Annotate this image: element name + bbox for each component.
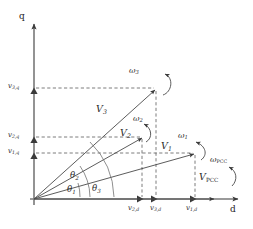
q-axis-label: q: [19, 12, 25, 21]
diagram-vector-graphics: [0, 0, 253, 229]
d-axis-label: d: [230, 205, 236, 214]
q-tick-label-v3q: v3,q: [8, 83, 19, 91]
vector-label-v2: V2: [120, 128, 131, 139]
vector-label-v3: V3: [96, 104, 107, 115]
phasor-diagram-figure: q d v3,q v2,q v1,q v2,d v3,d v1,d V3 V2 …: [0, 0, 253, 229]
angle-arc-theta1: [78, 183, 80, 197]
rotation-arrow-omegapcc: [229, 167, 236, 186]
angle-label-theta2: θ2: [70, 171, 79, 181]
rotation-arrow-omega3: [163, 74, 171, 95]
angle-label-theta3: θ3: [92, 184, 101, 194]
rotation-arrow-omega1: [196, 142, 205, 160]
q-tick-label-v1q: v1,q: [8, 148, 19, 156]
d-tick-label-v1d: v1,d: [186, 205, 197, 213]
vector-label-vpcc: VPCC: [199, 172, 218, 183]
omega-label-pcc: ωPCC: [210, 156, 227, 165]
q-tick-label-v2q: v2,q: [8, 132, 19, 140]
omega-label-3: ω3: [129, 67, 139, 76]
rotation-arrow-omega2: [144, 124, 151, 142]
omega-label-2: ω2: [133, 115, 143, 124]
angle-label-theta1: θ1: [67, 185, 76, 195]
projection-lines-v1: [36, 153, 195, 197]
vector-v2: [34, 138, 142, 199]
d-tick-label-v2d: v2,d: [128, 205, 139, 213]
vector-label-v1: V1: [161, 141, 172, 152]
d-tick-label-v3d: v3,d: [150, 205, 161, 213]
omega-label-1: ω1: [178, 132, 188, 141]
